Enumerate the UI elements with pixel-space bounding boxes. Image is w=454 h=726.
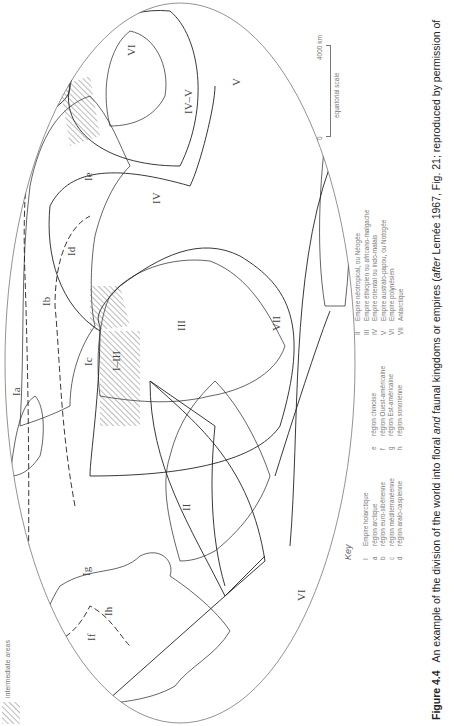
key-item: frégion Ouest-américaine [379,366,388,450]
key-item: arégion arctique [371,478,380,560]
world-map: VI If Ih Ig II Ia Ib Ic Id Ie I–III III … [0,0,360,726]
key-item: erégion chinoise [370,366,379,450]
hatch-iv-v [60,76,100,146]
key-title: Key [344,544,353,560]
boundary-i-ii [150,381,225,586]
figure-number: Figure 4.4 [430,670,442,720]
scale-note: equatorial scale [333,72,340,118]
label-ic: Ic [82,357,94,366]
scale-max: 4000 km [316,35,323,60]
key-item: VIEmpire polynésien [388,210,397,335]
label-i-iii: I–III [110,351,122,371]
scale-bar: 0 4000 km equatorial scale [316,10,356,140]
boundary-south-america-east [275,311,330,476]
label-vi-east: VI [125,44,137,56]
key-item: VEmpire australo-papou, ou Notogée [380,210,389,335]
key-item: IEmpire holarctique [362,478,371,560]
boundary-ia [24,126,35,721]
label-ib: Ib [40,296,52,306]
label-iv: IV [150,192,162,204]
label-id: Id [65,246,77,256]
label-ih: Ih [102,606,114,616]
label-iv-v: IV–V [182,89,194,114]
label-vi-west: VI [295,589,307,601]
key-column-2: erégion chinoise frégion Ouest-américain… [370,366,404,450]
label-ii: II [180,503,192,511]
key-column-1: IEmpire holarctique arégion arctique bré… [362,478,405,560]
scale-line [326,45,331,137]
label-ia: Ia [10,387,22,396]
boundary-vi-east [5,6,70,131]
label-if: If [85,633,97,641]
continent-south-america [166,381,270,561]
key-item: brégion euro-sibérienne [379,478,388,560]
key-item: crégion méditerranéenne [388,478,397,560]
key-item: IVEmpire oriental ou indo-malais [371,210,380,335]
key-item: grégion Est-américaine [387,366,396,450]
continent-greenland [10,396,43,476]
boundary-vi-west [90,556,265,716]
figure-page: VI If Ih Ig II Ia Ib Ic Id Ie I–III III … [0,0,454,726]
key-item: VIIAntarctique [397,210,406,335]
scale-zero: 0 [316,136,323,140]
map-outline [5,3,355,723]
hatch-swatch-icon [2,702,20,724]
key-column-3: IIEmpire néotropical, ou Néogée IIIEmpir… [354,210,406,335]
legend-intermediate-areas: intermediate areas [4,640,11,698]
continent-north-america [36,553,230,706]
label-v: V [230,78,242,86]
key-item: IIEmpire néotropical, ou Néogée [354,210,363,335]
key-item: drégion aralo-caspienne [396,478,405,560]
hatch-i-iv [90,286,130,331]
figure-caption: Figure 4.4An example of the division of … [430,0,442,720]
label-iii: III [175,320,187,331]
label-ig: Ig [80,566,92,576]
hatch-i-iii [100,331,140,426]
label-vii: VII [270,315,282,331]
label-ie: Ie [82,172,94,181]
boundary-americas-west [150,381,265,596]
key-item: IIIEmpire éthiopien ou africano-malgache [363,210,372,335]
key-item: hrégion sonorienne [396,366,405,450]
